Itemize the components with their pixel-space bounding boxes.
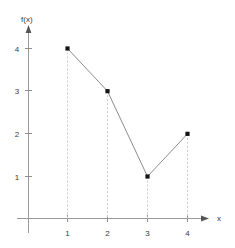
x-axis-label: x bbox=[217, 214, 221, 223]
x-tick-label: 1 bbox=[65, 229, 70, 238]
x-tick-label: 4 bbox=[185, 229, 190, 238]
y-axis-label: f(x) bbox=[21, 15, 33, 24]
data-point-marker bbox=[145, 174, 149, 178]
function-plot: f(x) x 4 3 2 1 1 2 bbox=[0, 0, 235, 248]
y-tick-label: 3 bbox=[15, 87, 20, 96]
data-point-marker bbox=[65, 46, 69, 50]
plot-background bbox=[0, 0, 235, 248]
y-tick-label: 1 bbox=[15, 173, 20, 182]
x-tick-label: 2 bbox=[105, 229, 110, 238]
y-tick-label: 4 bbox=[15, 45, 20, 54]
y-tick-label: 2 bbox=[15, 130, 20, 139]
data-point-marker bbox=[105, 89, 109, 93]
data-point-marker bbox=[185, 132, 189, 136]
chart-canvas: f(x) x 4 3 2 1 1 2 bbox=[0, 0, 235, 248]
x-tick-label: 3 bbox=[145, 229, 150, 238]
